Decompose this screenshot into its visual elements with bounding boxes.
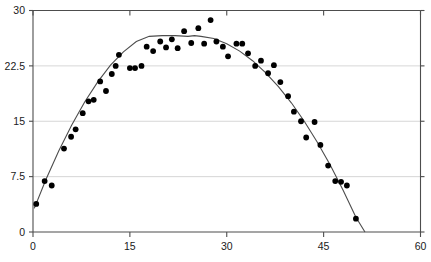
data-point [303, 135, 309, 141]
data-point [195, 25, 201, 31]
data-point [169, 36, 175, 42]
data-point [277, 79, 283, 85]
data-point [103, 88, 109, 94]
data-point [73, 126, 79, 132]
x-axis-ticks: 015304560 [30, 11, 426, 253]
data-point [175, 45, 181, 51]
data-point [113, 63, 119, 69]
data-point [109, 71, 115, 77]
data-point [291, 109, 297, 115]
data-point [97, 78, 103, 84]
data-point [91, 97, 97, 103]
data-point [181, 28, 187, 34]
data-point [312, 119, 318, 125]
data-point [245, 50, 251, 56]
data-point [271, 62, 277, 68]
data-point [163, 45, 169, 51]
data-point [298, 118, 304, 124]
data-points [33, 17, 358, 221]
x-tick-label: 0 [30, 240, 36, 252]
gridlines [33, 11, 421, 177]
data-point [258, 58, 264, 64]
fitted-curve [34, 36, 365, 232]
data-point [239, 41, 245, 47]
x-tick-label: 45 [318, 240, 330, 252]
data-point [285, 93, 291, 99]
data-point [150, 48, 156, 54]
data-point [338, 179, 344, 185]
scatter-chart: 07.51522.530015304560 [0, 0, 431, 262]
data-point [33, 201, 39, 207]
data-point [201, 41, 207, 47]
data-point [116, 52, 122, 58]
data-point [325, 163, 331, 169]
x-tick-label: 15 [124, 240, 136, 252]
data-point [234, 41, 240, 47]
data-point [344, 183, 350, 189]
data-point [139, 63, 145, 69]
data-point [332, 178, 338, 184]
data-point [157, 39, 163, 45]
data-point [225, 53, 231, 59]
data-point [265, 70, 271, 76]
y-tick-label: 7.5 [10, 170, 25, 182]
data-point [353, 216, 359, 222]
data-point [80, 110, 86, 116]
plot-area: 07.51522.530015304560 [0, 0, 431, 262]
data-point [127, 65, 133, 71]
data-point [68, 134, 74, 140]
data-point [42, 178, 48, 184]
data-point [252, 63, 258, 69]
y-tick-label: 30 [13, 4, 25, 16]
data-point [318, 142, 324, 148]
x-tick-label: 30 [221, 240, 233, 252]
data-point [49, 183, 55, 189]
y-tick-label: 22.5 [5, 60, 26, 72]
data-point [86, 98, 92, 104]
data-point [61, 146, 67, 152]
data-point [214, 39, 220, 45]
data-point [208, 17, 214, 23]
data-point [220, 44, 226, 50]
y-tick-label: 15 [13, 115, 25, 127]
data-point [132, 65, 138, 71]
data-point [188, 40, 194, 46]
y-tick-label: 0 [19, 226, 25, 238]
x-tick-label: 60 [415, 240, 427, 252]
data-point [144, 44, 150, 50]
